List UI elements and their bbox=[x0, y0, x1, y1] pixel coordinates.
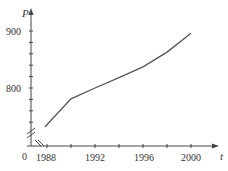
x-tick-label-1996: 1996 bbox=[134, 152, 154, 163]
y-axis-label: P bbox=[21, 7, 29, 19]
x-tick-label-2000: 2000 bbox=[181, 152, 201, 163]
axis-break-icon bbox=[27, 128, 44, 146]
x-axis-arrow-icon bbox=[212, 144, 219, 149]
x-tick-label-1992: 1992 bbox=[85, 152, 105, 163]
origin-label: 0 bbox=[22, 151, 27, 162]
x-tick-label-1988: 1988 bbox=[36, 152, 56, 163]
line-chart: P t 900 800 0 1988 1992 1996 2000 bbox=[0, 0, 228, 171]
data-line bbox=[45, 33, 191, 127]
x-axis-label: t bbox=[220, 150, 224, 162]
y-axis-arrow-icon bbox=[29, 8, 34, 15]
y-tick-label-900: 900 bbox=[6, 26, 21, 37]
y-tick-label-800: 800 bbox=[6, 83, 21, 94]
